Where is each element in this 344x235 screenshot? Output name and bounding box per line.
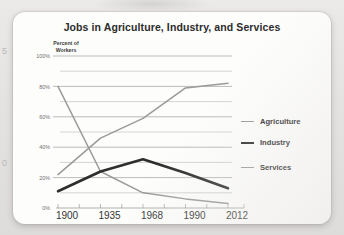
svg-text:20%: 20%	[39, 175, 50, 181]
edge-digit-bottom: 0	[2, 158, 8, 168]
legend-swatch-agriculture-icon	[241, 121, 254, 122]
edge-digit-top: 5	[2, 46, 8, 56]
svg-text:1968: 1968	[141, 210, 164, 221]
svg-text:1990: 1990	[183, 210, 206, 221]
legend-item-agriculture[interactable]: Agriculture	[241, 116, 327, 127]
chart-legend: Agriculture Industry Services	[241, 116, 327, 183]
gridlines	[53, 56, 232, 193]
legend-label-industry: Industry	[260, 138, 290, 147]
svg-text:0%: 0%	[42, 205, 50, 211]
x-tick-labels: 19001935196819902012	[56, 210, 249, 221]
chart-card: Jobs in Agriculture, Industry, and Servi…	[13, 12, 331, 224]
legend-item-services[interactable]: Services	[241, 162, 327, 173]
scan-smudge	[92, 0, 212, 12]
legend-swatch-industry-icon	[241, 142, 254, 144]
svg-text:1935: 1935	[98, 210, 121, 221]
legend-label-services: Services	[260, 163, 291, 172]
legend-label-agriculture: Agriculture	[260, 117, 301, 126]
x-axis	[56, 204, 244, 208]
y-tick-labels: 0%20%40%60%80%100%	[36, 53, 50, 211]
svg-text:60%: 60%	[39, 114, 50, 120]
legend-swatch-services-icon	[241, 167, 254, 168]
legend-item-industry[interactable]: Industry	[241, 137, 327, 148]
svg-text:40%: 40%	[39, 144, 50, 150]
svg-text:2012: 2012	[226, 210, 249, 221]
svg-text:100%: 100%	[36, 53, 50, 59]
svg-text:1900: 1900	[56, 210, 79, 221]
svg-text:80%: 80%	[39, 84, 50, 90]
